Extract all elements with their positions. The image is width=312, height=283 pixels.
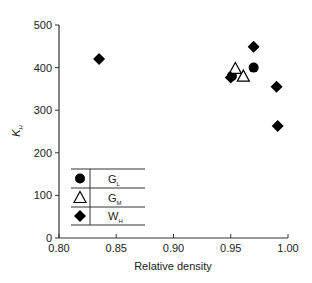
open-triangle-marker-icon xyxy=(74,192,86,203)
data-point-w-h xyxy=(93,53,105,65)
legend-label: GM xyxy=(108,192,122,206)
y-axis-label: KH xyxy=(10,125,24,137)
x-tick-label: 0.95 xyxy=(220,242,241,254)
x-tick-label: 0.80 xyxy=(48,242,69,254)
svg-text:KH: KH xyxy=(10,125,24,137)
x-axis-label: Relative density xyxy=(134,260,212,272)
scatter-chart: 0100200300400500 0.800.850.900.951.00 Re… xyxy=(0,0,312,283)
legend-label: GL xyxy=(108,173,121,187)
x-tick-label: 1.00 xyxy=(277,242,298,254)
y-axis-label-sub: H xyxy=(18,125,24,130)
legend: GLGMWH xyxy=(71,169,145,225)
filled-circle-marker-icon xyxy=(75,174,85,184)
data-point-g-l xyxy=(249,63,259,73)
data-points xyxy=(93,41,284,132)
x-tick-label: 0.85 xyxy=(106,242,127,254)
x-axis-ticks: 0.800.850.900.951.00 xyxy=(48,234,298,254)
x-tick-label: 0.90 xyxy=(163,242,184,254)
filled-diamond-marker-icon xyxy=(74,210,86,222)
data-point-w-h xyxy=(271,81,283,93)
plot-area: 0100200300400500 0.800.850.900.951.00 Re… xyxy=(10,19,299,272)
y-axis-ticks: 0100200300400500 xyxy=(34,19,59,244)
data-point-w-h xyxy=(248,41,260,53)
y-tick-label: 500 xyxy=(34,19,52,31)
legend-label: WH xyxy=(108,210,123,224)
y-tick-label: 300 xyxy=(34,104,52,116)
data-point-w-h xyxy=(272,120,284,132)
y-tick-label: 400 xyxy=(34,62,52,74)
y-tick-label: 200 xyxy=(34,147,52,159)
y-tick-label: 100 xyxy=(34,189,52,201)
